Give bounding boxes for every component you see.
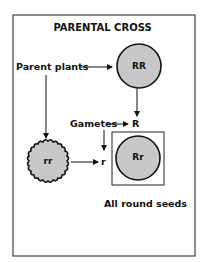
rr-wrinkled-genotype-label: rr (40, 157, 56, 166)
rr-genotype-label: RR (129, 62, 149, 71)
gametes-label: Gametes (70, 119, 117, 129)
diagram-title: PARENTAL CROSS (0, 23, 205, 33)
gamete-recessive-label: r (101, 157, 106, 167)
parent-plants-label: Parent plants (16, 62, 88, 72)
offspring-genotype-label: Rr (128, 153, 148, 162)
result-label: All round seeds (104, 199, 187, 209)
gamete-dominant-label: R (132, 119, 139, 129)
parental-cross-diagram: PARENTAL CROSS Parent plants RR Gametes … (0, 0, 205, 262)
diagram-canvas (0, 0, 205, 262)
